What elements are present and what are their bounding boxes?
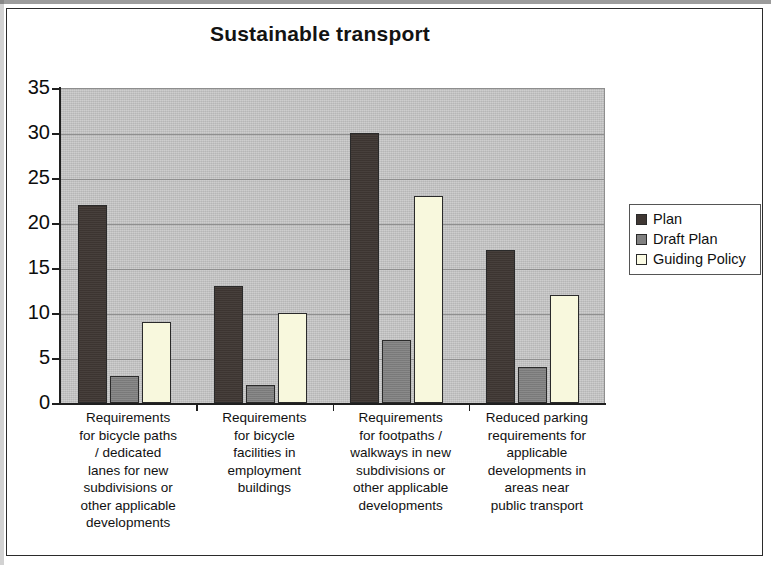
plot-area (60, 88, 605, 403)
chart-legend: Plan Draft Plan Guiding Policy (629, 204, 761, 275)
gridline (60, 134, 604, 135)
y-axis-tick-mark (52, 358, 59, 360)
bar-guiding-policy-cat1 (142, 322, 171, 403)
gridline (60, 224, 604, 225)
legend-label-plan: Plan (653, 211, 682, 227)
x-axis-category-label-4: Reduced parkingrequirements forapplicabl… (469, 409, 605, 514)
x-axis-category-label-1: Requirementsfor bicycle paths/ dedicated… (60, 409, 196, 532)
y-axis-tick-label: 15 (4, 256, 50, 279)
legend-item-draft-plan: Draft Plan (636, 231, 755, 247)
y-axis-tick-label: 10 (4, 301, 50, 324)
bar-guiding-policy-cat3 (414, 196, 443, 403)
x-axis-category-label-3: Requirementsfor footpaths /walkways in n… (333, 409, 469, 514)
bar-plan-cat3 (350, 133, 379, 403)
y-axis-tick-label: 20 (4, 211, 50, 234)
y-axis-tick-mark (52, 178, 59, 180)
gridline (60, 314, 604, 315)
bar-plan-cat2 (214, 286, 243, 403)
legend-label-draft-plan: Draft Plan (653, 231, 717, 247)
legend-item-plan: Plan (636, 211, 755, 227)
bar-draft-plan-cat1 (110, 376, 139, 403)
legend-swatch-guiding-policy-icon (636, 254, 647, 265)
y-axis-tick-labels: 35302520151050 (0, 0, 50, 565)
bar-guiding-policy-cat4 (550, 295, 579, 403)
bar-draft-plan-cat2 (246, 385, 275, 403)
legend-swatch-draft-plan-icon (636, 234, 647, 245)
y-axis-tick-mark (52, 313, 59, 315)
x-axis-category-label-2: Requirementsfor bicyclefacilities inempl… (196, 409, 332, 497)
bar-draft-plan-cat3 (382, 340, 411, 403)
gridline (60, 269, 604, 270)
y-axis-tick-mark (52, 268, 59, 270)
chart-title: Sustainable transport (0, 22, 640, 46)
y-axis-tick-label: 35 (4, 76, 50, 99)
gridline (60, 179, 604, 180)
scan-edge-top (0, 0, 771, 4)
y-axis-tick-label: 0 (4, 391, 50, 414)
y-axis-tick-label: 25 (4, 166, 50, 189)
legend-swatch-plan-icon (636, 214, 647, 225)
legend-item-guiding-policy: Guiding Policy (636, 251, 755, 267)
y-axis-tick-mark (52, 403, 59, 405)
bar-draft-plan-cat4 (518, 367, 547, 403)
y-axis-line (59, 87, 61, 404)
bar-plan-cat4 (486, 250, 515, 403)
bar-plan-cat1 (78, 205, 107, 403)
y-axis-tick-mark (52, 88, 59, 90)
y-axis-tick-mark (52, 133, 59, 135)
y-axis-tick-label: 5 (4, 346, 50, 369)
bar-guiding-policy-cat2 (278, 313, 307, 403)
y-axis-tick-label: 30 (4, 121, 50, 144)
y-axis-tick-mark (52, 223, 59, 225)
legend-label-guiding-policy: Guiding Policy (653, 251, 746, 267)
